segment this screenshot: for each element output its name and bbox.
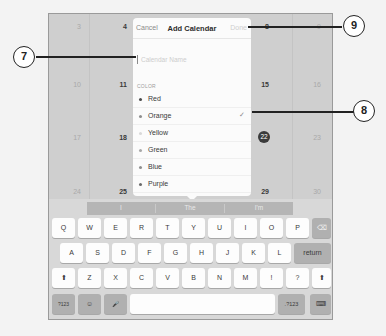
color-name: Green — [148, 146, 167, 153]
color-dot-icon — [139, 149, 142, 152]
color-option-green[interactable]: Green — [133, 142, 251, 159]
color-dot-icon — [139, 115, 142, 118]
shift-key-left[interactable]: ⬆ — [52, 268, 75, 288]
calendar-day[interactable]: 30 — [301, 188, 321, 195]
calendar-day[interactable]: 11 — [107, 81, 127, 88]
key-h[interactable]: H — [190, 243, 213, 263]
key-r[interactable]: R — [130, 218, 153, 238]
calendar-day[interactable]: 24 — [61, 188, 81, 195]
color-option-blue[interactable]: Blue — [133, 159, 251, 176]
key-z[interactable]: Z — [78, 268, 101, 288]
dictation-key[interactable]: 🎤 — [104, 294, 127, 314]
calendar-day[interactable]: 23 — [301, 134, 321, 141]
calendar-day[interactable]: 15 — [249, 81, 269, 88]
calendar-day[interactable]: 29 — [249, 188, 269, 195]
color-dot-icon — [139, 166, 142, 169]
key-n[interactable]: N — [208, 268, 231, 288]
calendar-name-placeholder: Calendar Name — [141, 56, 187, 63]
emoji-key[interactable]: ☺ — [78, 294, 101, 314]
key-m[interactable]: M — [234, 268, 257, 288]
key-s[interactable]: S — [86, 243, 109, 263]
key-x[interactable]: X — [104, 268, 127, 288]
color-name: Red — [148, 95, 161, 102]
color-dot-icon — [139, 132, 142, 135]
calendar-day[interactable]: 18 — [107, 134, 127, 141]
color-name: Yellow — [148, 129, 168, 136]
keyboard-hide-icon: ⌨ — [316, 300, 326, 307]
color-name: Purple — [148, 180, 168, 187]
color-dot-icon — [139, 98, 142, 101]
color-option-red[interactable]: Red — [133, 91, 251, 108]
space-bar[interactable] — [130, 294, 275, 314]
callout-7: 7 — [13, 46, 35, 68]
key-u[interactable]: U — [208, 218, 231, 238]
return-key[interactable]: return — [294, 243, 331, 263]
shift-icon: ⬆ — [61, 274, 67, 281]
color-dot-icon — [139, 183, 142, 186]
onscreen-keyboard: I The I'm Q W E R T Y U I O P ⌫ A S D F … — [49, 199, 333, 320]
numbers-key-right[interactable]: .?123 — [278, 294, 305, 314]
suggestion-item[interactable]: The — [156, 204, 224, 211]
callout-9: 9 — [343, 15, 365, 37]
text-cursor — [137, 55, 138, 64]
color-option-orange[interactable]: Orange ✓ — [133, 108, 251, 125]
checkmark-icon: ✓ — [239, 111, 245, 119]
callout-8: 8 — [353, 100, 375, 122]
emoji-icon: ☺ — [86, 300, 93, 307]
key-exclamation[interactable]: ! — [260, 268, 283, 288]
key-f[interactable]: F — [138, 243, 161, 263]
calendar-day[interactable]: 17 — [61, 134, 81, 141]
calendar-name-field[interactable]: Calendar Name — [137, 54, 245, 66]
key-l[interactable]: L — [268, 243, 291, 263]
key-p[interactable]: P — [286, 218, 309, 238]
delete-key[interactable]: ⌫ — [312, 218, 331, 238]
key-a[interactable]: A — [60, 243, 83, 263]
key-c[interactable]: C — [130, 268, 153, 288]
callout-leader-7 — [36, 56, 136, 58]
key-y[interactable]: Y — [182, 218, 205, 238]
color-section-label: COLOR — [137, 83, 156, 89]
delete-icon: ⌫ — [317, 224, 327, 231]
calendar-day[interactable]: 25 — [107, 188, 127, 195]
calendar-day[interactable]: 4 — [107, 23, 127, 30]
numbers-key-left[interactable]: ?123 — [52, 294, 75, 314]
add-calendar-popover: Cancel Add Calendar Done Calendar Name C… — [133, 18, 251, 196]
key-i[interactable]: I — [234, 218, 257, 238]
calendar-day[interactable]: 10 — [61, 81, 81, 88]
shift-key-right[interactable]: ⬆ — [312, 268, 331, 288]
suggestion-bar: I The I'm — [87, 202, 293, 215]
key-t[interactable]: T — [156, 218, 179, 238]
popover-header: Cancel Add Calendar Done — [133, 18, 251, 39]
color-name: Orange — [148, 112, 171, 119]
suggestion-item[interactable]: I'm — [225, 204, 293, 211]
color-option-yellow[interactable]: Yellow — [133, 125, 251, 142]
key-d[interactable]: D — [112, 243, 135, 263]
color-name: Blue — [148, 163, 162, 170]
calendar-day-today[interactable]: 22 — [258, 131, 270, 143]
hide-keyboard-key[interactable]: ⌨ — [310, 294, 331, 314]
shift-icon: ⬆ — [319, 274, 325, 281]
calendar-day[interactable]: 16 — [301, 81, 321, 88]
key-e[interactable]: E — [104, 218, 127, 238]
key-k[interactable]: K — [242, 243, 265, 263]
callout-leader-9 — [248, 26, 342, 28]
microphone-icon: 🎤 — [112, 301, 119, 307]
suggestion-item[interactable]: I — [87, 204, 155, 211]
key-v[interactable]: V — [156, 268, 179, 288]
key-w[interactable]: W — [78, 218, 101, 238]
calendar-day[interactable]: 3 — [61, 23, 81, 30]
key-q[interactable]: Q — [52, 218, 75, 238]
color-option-purple[interactable]: Purple — [133, 176, 251, 193]
callout-leader-8 — [252, 111, 362, 113]
key-j[interactable]: J — [216, 243, 239, 263]
key-o[interactable]: O — [260, 218, 283, 238]
ipad-screen: 3 4 8 9 10 11 15 16 17 18 22 23 24 25 29… — [48, 13, 333, 320]
key-question[interactable]: ? — [286, 268, 309, 288]
key-b[interactable]: B — [182, 268, 205, 288]
done-button[interactable]: Done — [230, 24, 247, 31]
key-g[interactable]: G — [164, 243, 187, 263]
